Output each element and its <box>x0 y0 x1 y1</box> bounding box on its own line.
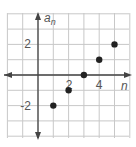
data-point <box>65 87 71 93</box>
x-axis-right-arrow-icon <box>124 72 132 78</box>
y-tick-label-neg2: -2 <box>20 99 31 113</box>
y-axis-up-arrow-icon <box>35 12 41 20</box>
y-axis-label-sub: n <box>51 17 56 27</box>
x-axis-label: n <box>121 79 128 93</box>
axis-labels: 2 -2 2 4 n an <box>20 11 128 113</box>
x-tick-label-4: 4 <box>96 78 103 92</box>
data-point <box>81 72 87 78</box>
y-tick-label-2: 2 <box>24 37 31 51</box>
data-point <box>111 41 117 47</box>
x-axis-left-arrow-icon <box>4 72 12 78</box>
data-point <box>96 57 102 63</box>
data-point <box>50 102 56 108</box>
sequence-plot: 2 -2 2 4 n an <box>0 0 136 147</box>
